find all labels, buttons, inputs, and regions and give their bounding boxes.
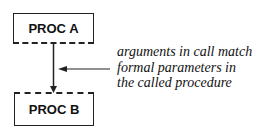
annotation-line-1: arguments in call match	[117, 44, 252, 60]
proc-a-box: PROC A	[13, 13, 94, 44]
annotation-line-3: the called procedure	[117, 75, 252, 91]
proc-a-label: PROC A	[28, 21, 78, 36]
proc-b-label: PROC B	[29, 102, 80, 117]
proc-b-box: PROC B	[14, 92, 94, 126]
annotation-arrowhead-icon	[58, 66, 67, 72]
annotation-line-2: formal parameters in	[117, 60, 252, 76]
diagram-canvas: PROC A PROC B arguments in call match fo…	[0, 0, 257, 133]
annotation-text: arguments in call match formal parameter…	[117, 44, 252, 91]
